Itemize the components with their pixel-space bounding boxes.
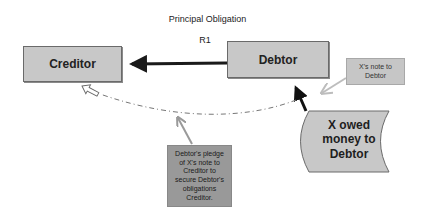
receivable-node: X owed money to Debtor (306, 118, 392, 161)
pledge-line-1: Debtor's pledge (175, 150, 224, 159)
relation-label-r1: R1 (190, 35, 220, 45)
pledge-line-2: of X's note to (179, 159, 220, 168)
receivable-to-debtor-arrow (296, 88, 306, 111)
creditor-node: Creditor (23, 46, 122, 82)
note-callout-arrow (322, 78, 346, 93)
note-callout: X's note to Debtor (346, 58, 405, 85)
receivable-line-3: Debtor (306, 147, 392, 161)
creditor-label: Creditor (49, 57, 96, 71)
pledge-node: Debtor's pledge of X's note to Creditor … (167, 145, 232, 207)
debtor-label: Debtor (259, 53, 298, 67)
pledge-line-3: Creditor to (183, 167, 216, 176)
pledge-line-6: Creditor. (186, 194, 212, 203)
pledge-line-4: secure Debtor's (175, 176, 224, 185)
note-label: X's note to Debtor (352, 63, 400, 80)
receivable-line-1: X owed (306, 118, 392, 132)
pledge-dashed-curve (100, 94, 296, 114)
principal-obligation-arrow (132, 63, 227, 64)
pledge-pointer-arrow (178, 118, 192, 144)
diagram-title: Principal Obligation (150, 14, 265, 24)
pledge-line-5: obligations (183, 185, 216, 194)
debtor-node: Debtor (227, 41, 329, 78)
receivable-line-2: money to (306, 132, 392, 146)
hollow-arrowhead-icon (80, 82, 101, 99)
